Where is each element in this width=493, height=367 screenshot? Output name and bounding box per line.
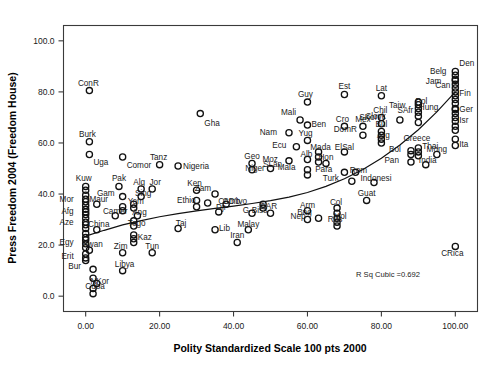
point-label: Arg [377,131,390,140]
y-axis-title: Press Freedom 2004 (Freedom House) [6,72,18,263]
data-point [304,122,310,128]
point-label: Guy [298,90,314,99]
x-axis-ticks: 0.0020.0040.0060.0080.00100.00 [77,312,468,331]
point-label: Cuba [85,282,105,291]
point-label: SAfr [397,106,413,115]
point-label: Togo [128,219,146,228]
data-point [86,151,92,157]
point-label: ElSal [335,143,354,152]
data-point [360,132,366,138]
point-label: Rwan [82,240,103,249]
data-point [408,151,414,157]
point-label: Mong [427,145,448,154]
point-label: Yem [128,197,144,206]
data-point [293,144,299,150]
x-tick-label: 60.00 [297,321,319,331]
data-point [86,88,92,94]
point-label: Mada [310,143,331,152]
point-label: Iran [230,231,245,240]
point-label: Guat [358,189,376,198]
point-label: Kaz [138,233,152,242]
point-label: Camer [103,207,128,216]
x-axis-title: Polity Standardized Scale 100 pts 2000 [173,342,366,354]
data-point [452,142,458,148]
point-label: Den [459,59,474,68]
point-label: Can [435,81,450,90]
point-label: Bur [68,262,81,271]
data-point [397,117,403,123]
data-point [83,251,89,257]
point-label: Col [330,198,342,207]
data-point [120,193,126,199]
point-label: Alg [133,178,145,187]
data-point [116,183,122,189]
data-point [157,162,163,168]
y-tick-label: 60.0 [38,138,55,148]
point-label: Taj [176,219,187,228]
point-label: Mor [60,195,74,204]
point-label: Libya [115,260,135,269]
point-label: Burk [79,130,97,139]
point-label: Hung [419,103,439,112]
data-point [452,114,458,120]
data-point [131,236,137,242]
data-point [297,117,303,123]
point-label: Turk [323,174,340,183]
point-label: DomR [334,125,357,134]
y-tick-label: 20.0 [38,240,55,250]
point-label: China [88,220,110,229]
data-point [205,200,211,206]
x-tick-label: 40.00 [223,321,245,331]
x-tick-label: 20.00 [149,321,171,331]
point-label: Bng [297,208,312,217]
y-tick-label: 0.0 [43,291,55,301]
data-point [341,91,347,97]
point-label: Alb [301,150,313,159]
point-label: Rus [328,215,343,224]
point-label: Hon [318,153,333,162]
point-label: CRica [441,249,464,258]
point-label: Bol [389,145,401,154]
point-label: Malay [237,220,260,229]
x-tick-label: 100.00 [442,321,468,331]
point-label: Ecu [272,141,287,150]
data-point [349,178,355,184]
y-tick-label: 40.0 [38,189,55,199]
point-label: Cro [336,115,350,124]
data-point [90,266,96,272]
data-point [286,130,292,136]
point-label: Nam [260,128,277,137]
point-label: Pan [384,156,399,165]
point-label: Dji [216,203,226,212]
point-label: Est [339,82,352,91]
point-label: Mala [278,163,296,172]
point-label: Bul [375,120,387,129]
scatter-plot-figure: 0.0020.0040.0060.0080.00100.00 0.020.040… [0,0,493,367]
data-point [452,127,458,133]
data-point [341,169,347,175]
point-label: Jor [150,178,162,187]
data-point [415,119,421,125]
y-tick-label: 100.0 [33,36,55,46]
point-label: Indonesi [361,174,392,183]
point-label: Gha [204,119,220,128]
point-label: Isr [459,116,468,125]
point-label: Erit [61,252,74,261]
point-label: Comor [127,161,152,170]
data-point [212,227,218,233]
y-tick-label: 80.0 [38,87,55,97]
point-label: Maur [89,195,108,204]
y-axis-ticks: 0.020.040.060.080.0100.0 [33,36,63,301]
point-label: Afg [61,207,74,216]
data-point [452,136,458,142]
data-point [120,154,126,160]
data-point [234,239,240,245]
point-label: Zim [114,242,128,251]
point-label: Kuw [76,174,92,183]
point-label: CAR [260,202,277,211]
point-label: Ben [311,120,326,129]
point-label: Nigeria [183,162,209,171]
point-label: Belg [430,67,447,76]
data-point [86,139,92,145]
data-point [408,159,414,165]
